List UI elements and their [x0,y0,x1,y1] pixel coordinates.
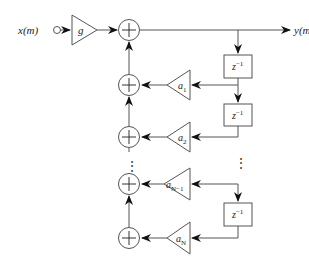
delay-block-1: z−1 [224,55,252,78]
input-node [54,27,61,34]
delay-block-3: z−1 [224,203,252,226]
svg-text:g: g [78,24,84,36]
summer-3 [119,174,140,195]
summer-0 [119,20,140,41]
summer-4 [119,228,140,249]
coef-aN: aN [142,222,238,254]
coef-aN-1: aN−1 [142,168,238,200]
ellipsis-right: ⋮ [235,156,247,170]
delay-block-2: z−1 [224,104,252,126]
ellipsis-left: ⋮ [126,159,138,173]
gain-block: g [72,15,97,45]
input-label: x(m) [17,24,38,37]
summer-1 [119,75,140,96]
output-label: y(m) [293,24,309,37]
summer-2 [119,127,140,148]
filter-diagram: x(m) g ⋮ y(m) z−1 z−1 [0,0,309,267]
